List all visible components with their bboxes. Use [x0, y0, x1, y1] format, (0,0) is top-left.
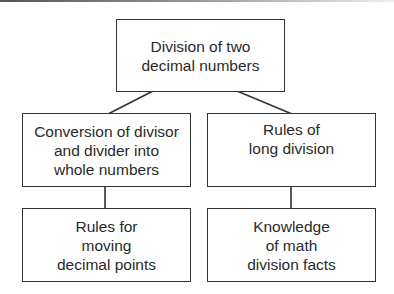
node-conversion: Conversion of divisor and divider into w… [22, 113, 191, 187]
connector-root-to-conversion [108, 91, 153, 114]
connector-root-to-long-division [237, 91, 292, 114]
node-math-facts: Knowledge of math division facts [207, 208, 376, 282]
node-root-label: Division of two decimal numbers [141, 37, 259, 75]
node-long-division-label: Rules of long division [249, 120, 334, 158]
node-conversion-label: Conversion of divisor and divider into w… [34, 122, 179, 179]
node-math-facts-label: Knowledge of math division facts [247, 217, 336, 274]
node-moving-points-label: Rules for moving decimal points [57, 217, 156, 274]
node-moving-points: Rules for moving decimal points [22, 208, 191, 282]
node-long-division: Rules of long division [207, 113, 376, 187]
node-root: Division of two decimal numbers [116, 19, 285, 92]
